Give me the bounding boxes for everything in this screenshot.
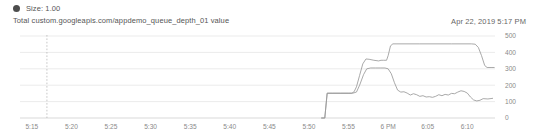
x-tick-label: 5:30	[144, 123, 157, 130]
series-title: Total custom.googleapis.com/appdemo_queu…	[13, 16, 229, 26]
y-tick-label: 100	[505, 98, 516, 105]
series-line-queue-depth-upper	[322, 44, 495, 118]
line-chart-svg: 01002003004005005:155:205:255:305:355:40…	[0, 30, 535, 137]
y-tick-label: 400	[505, 49, 516, 56]
series-line-queue-depth-lower	[322, 68, 493, 118]
x-tick-label: 5:40	[223, 123, 236, 130]
y-tick-label: 500	[505, 32, 516, 39]
x-tick-label: 5:55	[342, 123, 355, 130]
y-tick-label: 0	[505, 114, 509, 121]
x-tick-label: 5:35	[184, 123, 197, 130]
x-tick-label: 5:45	[263, 123, 276, 130]
x-tick-label: 5:25	[105, 123, 118, 130]
plot-area[interactable]: 01002003004005005:155:205:255:305:355:40…	[0, 30, 535, 137]
x-tick-label: 6:05	[421, 123, 434, 130]
x-tick-label: 5:20	[65, 123, 78, 130]
x-tick-label: 5:15	[25, 123, 38, 130]
x-tick-label: 5:50	[303, 123, 316, 130]
legend[interactable]: Size: 1.00	[13, 3, 60, 14]
timestamp-label: Apr 22, 2019 5:17 PM	[451, 17, 526, 27]
x-tick-label: 6 PM	[380, 123, 395, 130]
y-tick-label: 300	[505, 65, 516, 72]
y-tick-label: 200	[505, 82, 516, 89]
legend-label: Size: 1.00	[26, 4, 60, 13]
chart-widget: Size: 1.00 Total custom.googleapis.com/a…	[0, 0, 535, 137]
filled-circle-marker-icon	[13, 5, 20, 12]
x-tick-label: 6:10	[461, 123, 474, 130]
